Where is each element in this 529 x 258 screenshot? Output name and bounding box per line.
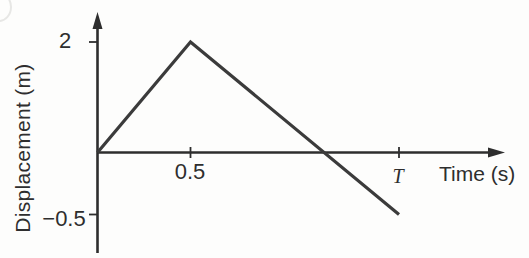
displacement-line-series xyxy=(98,42,400,215)
y-tick-label-2: 2 xyxy=(59,30,71,52)
figure-displacement-time-graph: 2 −0.5 0.5 T Time (s) Displacement (m) xyxy=(0,0,529,258)
x-axis-arrowhead-icon xyxy=(488,148,505,158)
y-axis-arrowhead-icon xyxy=(93,12,103,29)
y-axis-title: Displacement (m) xyxy=(12,63,33,232)
y-tick-label-neg0p5: −0.5 xyxy=(42,208,85,230)
x-tick-label-T: T xyxy=(392,166,403,186)
x-tick-label-0p5: 0.5 xyxy=(175,161,206,183)
axis-ticks xyxy=(89,42,399,215)
x-axis-title: Time (s) xyxy=(439,163,515,184)
